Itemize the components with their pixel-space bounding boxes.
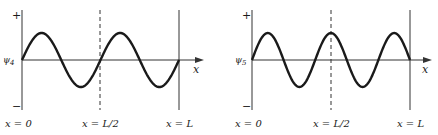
label-x-0: x = 0 [5,118,32,129]
minus-label: − [242,100,251,113]
panel-psi4: + − ψ4 x x = 0 x = L/2 x = L [3,9,204,129]
plus-label: + [12,9,21,22]
label-x-half: x = L/2 [313,118,350,129]
psi-label: ψ4 [3,55,15,67]
x-axis-label: x [193,63,200,76]
plus-label: + [242,9,251,22]
minus-label: − [12,100,21,113]
label-x-half: x = L/2 [82,118,119,129]
x-axis-label: x [422,63,429,76]
label-x-L: x = L [397,118,424,129]
wavefunction-diagram: + − ψ4 x x = 0 x = L/2 x = L + − ψ5 x x … [0,0,438,135]
panel-psi5: + − ψ5 x x = 0 x = L/2 x = L [235,9,432,129]
label-x-0: x = 0 [235,118,262,129]
psi-label: ψ5 [235,55,247,67]
label-x-L: x = L [166,118,193,129]
